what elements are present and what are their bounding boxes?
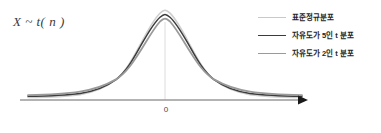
legend-label-t-df5: 자유도가 5인 t 분포 [292, 30, 354, 41]
legend-item-standard-normal[interactable]: 표준정규분포 [258, 12, 354, 23]
legend: 표준정규분포 자유도가 5인 t 분포 자유도가 2인 t 분포 [258, 12, 354, 59]
t-distribution-figure: X ~ t( n ) 0 표준정규분포 자유도가 5인 t 분포 자유도가 2인… [0, 0, 381, 133]
distribution-notation-label: X ~ t( n ) [13, 14, 65, 30]
legend-item-t-df2[interactable]: 자유도가 2인 t 분포 [258, 48, 354, 59]
legend-item-t-df5[interactable]: 자유도가 5인 t 분포 [258, 30, 354, 41]
legend-swatch-standard-normal [258, 17, 286, 18]
legend-swatch-t-df5 [258, 35, 286, 36]
legend-swatch-t-df2 [258, 53, 286, 54]
x-axis-origin-tick-label: 0 [160, 105, 172, 114]
x-axis-arrow-icon [298, 96, 308, 105]
legend-label-t-df2: 자유도가 2인 t 분포 [292, 48, 354, 59]
legend-label-standard-normal: 표준정규분포 [292, 12, 334, 23]
